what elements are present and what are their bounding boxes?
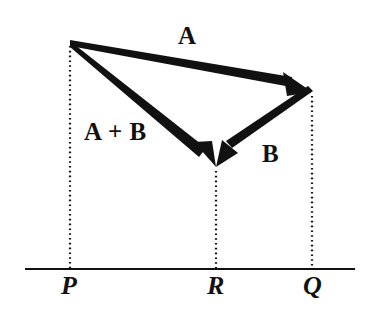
vector-a-plus-b-arrow	[70, 41, 216, 167]
point-label-r: R	[207, 273, 224, 299]
point-label-q: Q	[303, 273, 322, 299]
vector-diagram: A A + B B P R Q	[0, 0, 372, 321]
vector-label-a: A	[178, 23, 197, 48]
vector-b-shaft	[226, 86, 313, 148]
vector-label-b: B	[262, 141, 279, 166]
point-label-p: P	[61, 273, 77, 299]
vector-label-a-plus-b: A + B	[84, 119, 147, 144]
